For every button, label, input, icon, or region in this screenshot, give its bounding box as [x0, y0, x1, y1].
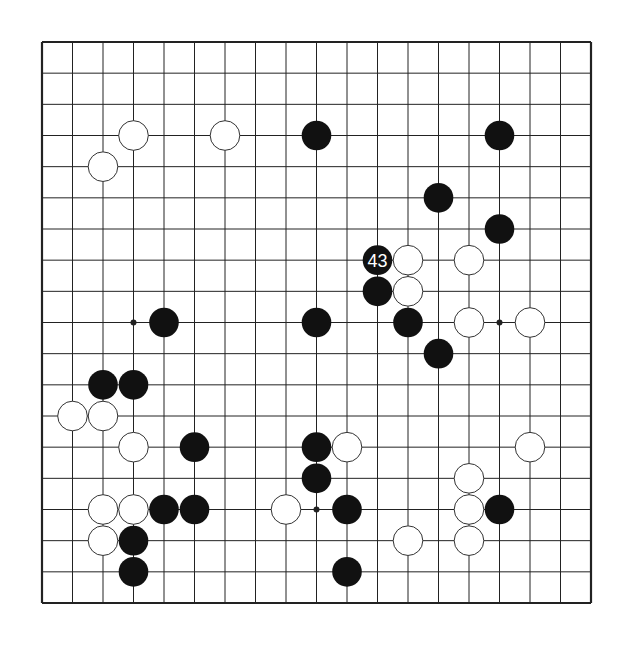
black-stone — [119, 526, 149, 556]
black-stone — [302, 464, 332, 494]
black-stone — [363, 277, 393, 307]
white-stone — [454, 526, 484, 556]
black-stone — [485, 121, 515, 151]
go-board-diagram: 43 — [0, 0, 632, 646]
white-stone — [119, 121, 149, 151]
black-stone — [485, 495, 515, 525]
white-stone — [454, 245, 484, 275]
black-stone — [149, 495, 179, 525]
white-stone — [393, 526, 423, 556]
black-stone — [332, 557, 362, 587]
move-number-label: 43 — [367, 251, 387, 271]
white-stone — [119, 495, 149, 525]
star-point — [314, 507, 320, 513]
black-stone — [149, 308, 179, 338]
white-stone — [515, 308, 545, 338]
white-stone — [88, 401, 118, 431]
white-stone — [393, 245, 423, 275]
white-stone — [88, 495, 118, 525]
white-stone — [88, 526, 118, 556]
white-stone — [515, 432, 545, 462]
star-point — [497, 320, 503, 326]
white-stone — [210, 121, 240, 151]
white-stone — [88, 152, 118, 182]
black-stone — [119, 557, 149, 587]
go-board: 43 — [0, 0, 632, 646]
white-stone — [119, 432, 149, 462]
black-stone — [302, 308, 332, 338]
move-labels: 43 — [367, 251, 387, 271]
white-stone — [393, 277, 423, 307]
star-point — [131, 320, 137, 326]
black-stone — [424, 339, 454, 369]
black-stone — [302, 432, 332, 462]
black-stone — [119, 370, 149, 400]
white-stone — [454, 308, 484, 338]
white-stone — [58, 401, 88, 431]
black-stone — [424, 183, 454, 213]
black-stone — [485, 214, 515, 244]
black-stone — [180, 432, 210, 462]
white-stone — [332, 432, 362, 462]
black-stone — [332, 495, 362, 525]
black-stone — [302, 121, 332, 151]
white-stone — [454, 495, 484, 525]
black-stone — [88, 370, 118, 400]
black-stone — [180, 495, 210, 525]
white-stone — [271, 495, 301, 525]
white-stone — [454, 464, 484, 494]
black-stone — [393, 308, 423, 338]
